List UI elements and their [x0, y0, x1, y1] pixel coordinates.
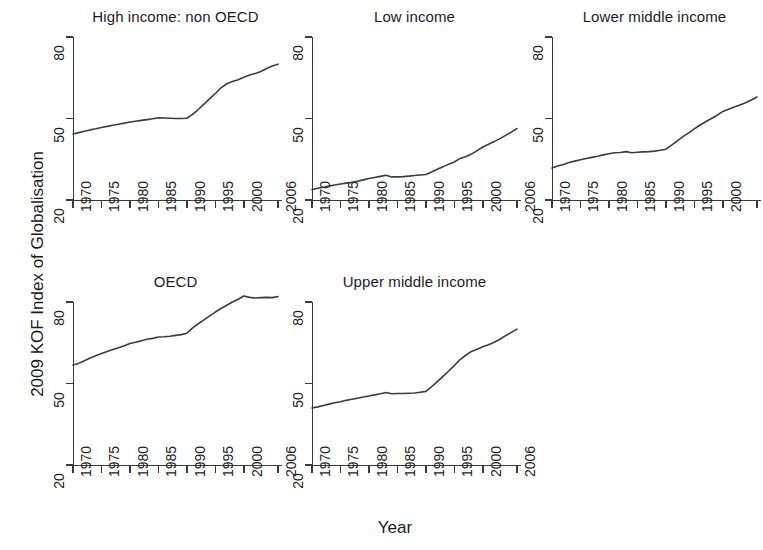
series-line [312, 129, 517, 190]
multi-panel-line-chart-figure: 2009 KOF Index of Globalisation Year Hig… [0, 0, 763, 550]
x-axis-tick [215, 466, 216, 473]
x-axis-tick [482, 201, 483, 208]
x-axis-tick [722, 201, 723, 208]
x-axis-tick [158, 201, 159, 208]
y-axis-tick-label: 20 [291, 465, 305, 497]
x-axis-tick [186, 201, 187, 208]
y-axis-tick [305, 383, 312, 384]
y-axis-tick-label: 20 [52, 200, 66, 232]
chart-panel: Upper middle income205080197019751980198… [250, 272, 517, 545]
plot-area: 20508019701975198019851990199520002006 [312, 302, 517, 465]
panel-title: High income: non OECD [73, 7, 278, 27]
series-line [312, 329, 517, 408]
y-axis-tick [66, 383, 73, 384]
series-line [73, 64, 278, 134]
x-axis-tick [215, 201, 216, 208]
plot-area: 20508019701975198019851990199520002006 [312, 37, 517, 200]
x-axis-tick [72, 201, 73, 208]
x-axis-tick [72, 466, 73, 473]
y-axis-tick-label: 20 [52, 465, 66, 497]
panel-title: OECD [73, 272, 278, 292]
x-axis-tick [311, 201, 312, 208]
x-axis-tick [454, 466, 455, 473]
plot-area: 20508019701975198019851990199520002006 [73, 302, 278, 465]
series-canvas [312, 302, 517, 465]
plot-area: 20508019701975198019851990199520002006 [73, 37, 278, 200]
y-axis-tick-label: 80 [52, 37, 66, 69]
y-axis-tick [66, 301, 73, 302]
x-axis-tick [665, 201, 666, 208]
x-axis-tick-label: 2006 [523, 446, 537, 477]
y-axis-tick-label: 50 [291, 119, 305, 151]
series-line [552, 97, 757, 168]
x-axis-tick [368, 466, 369, 473]
y-axis-tick-label: 20 [531, 200, 545, 232]
x-axis-tick [340, 201, 341, 208]
x-axis-tick [756, 201, 757, 208]
panel-title: Lower middle income [552, 7, 757, 27]
y-axis-tick [305, 36, 312, 37]
y-axis-tick-label: 50 [531, 119, 545, 151]
panel-title: Low income [312, 7, 517, 27]
x-axis-tick [101, 466, 102, 473]
chart-panel: Lower middle income205080197019751980198… [490, 7, 757, 280]
x-axis-tick [186, 466, 187, 473]
y-axis-tick [66, 118, 73, 119]
x-axis-tick [311, 466, 312, 473]
x-axis-tick [158, 466, 159, 473]
x-axis-tick [243, 201, 244, 208]
chart-panel: Low income205080197019751980198519901995… [250, 7, 517, 280]
y-axis-tick [545, 118, 552, 119]
x-axis-tick [516, 466, 517, 473]
x-axis-tick [694, 201, 695, 208]
series-canvas [73, 37, 278, 200]
x-axis-tick [129, 466, 130, 473]
y-axis-tick [305, 118, 312, 119]
x-axis-tick [340, 466, 341, 473]
x-axis-tick [368, 201, 369, 208]
y-axis-tick-label: 80 [291, 37, 305, 69]
y-axis-tick-label: 20 [291, 200, 305, 232]
y-axis-tick-label: 50 [52, 119, 66, 151]
x-axis-tick [637, 201, 638, 208]
y-axis-tick-label: 50 [291, 384, 305, 416]
panel-title: Upper middle income [312, 272, 517, 292]
x-axis-tick [608, 201, 609, 208]
x-axis-tick [129, 201, 130, 208]
series-canvas [73, 302, 278, 465]
series-line [73, 296, 278, 365]
x-axis-tick [243, 466, 244, 473]
chart-panel: High income: non OECD2050801970197519801… [11, 7, 278, 280]
x-axis-tick [397, 201, 398, 208]
chart-panel: OECD205080197019751980198519901995200020… [11, 272, 278, 545]
y-axis-tick-label: 50 [52, 384, 66, 416]
plot-area: 20508019701975198019851990199520002006 [552, 37, 757, 200]
x-axis-tick [551, 201, 552, 208]
series-canvas [552, 37, 757, 200]
x-axis-tick [482, 466, 483, 473]
x-axis-tick [454, 201, 455, 208]
x-axis-tick [580, 201, 581, 208]
y-axis-tick-label: 80 [291, 302, 305, 334]
y-axis-tick [66, 36, 73, 37]
x-axis-tick [397, 466, 398, 473]
x-axis-tick [425, 201, 426, 208]
y-axis-tick [305, 301, 312, 302]
y-axis-tick-label: 80 [52, 302, 66, 334]
x-axis-tick [425, 466, 426, 473]
y-axis-tick [545, 36, 552, 37]
series-canvas [312, 37, 517, 200]
y-axis-tick-label: 80 [531, 37, 545, 69]
x-axis-tick [101, 201, 102, 208]
